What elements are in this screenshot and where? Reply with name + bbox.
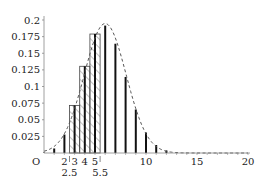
x-extra-label: 5.5 <box>92 167 108 178</box>
x-tick-label: 20 <box>242 156 255 167</box>
tick-labels: 0.0250.050.0750.10.1250.150.1750.2101520… <box>11 15 254 179</box>
x-tick-label: 10 <box>140 156 153 167</box>
y-tick-label: 0.2 <box>24 15 40 26</box>
bars <box>44 26 187 153</box>
y-tick-label: 0.075 <box>11 98 40 109</box>
x-extra-label: 2.5 <box>62 167 78 178</box>
y-tick-label: 0.05 <box>18 114 40 125</box>
y-tick-label: 0.025 <box>11 131 40 142</box>
x-extra-label: 5 <box>92 156 98 167</box>
y-tick-label: 0.125 <box>11 64 40 75</box>
x-extra-label: 4 <box>82 156 88 167</box>
origin-label: O <box>32 156 40 167</box>
y-tick-label: 0.175 <box>11 31 40 42</box>
y-tick-label: 0.1 <box>24 81 40 92</box>
x-extra-label: 3 <box>71 156 77 167</box>
probability-plot: 0.0250.050.0750.10.1250.150.1750.2101520… <box>0 0 263 182</box>
chart: 0.0250.050.0750.10.1250.150.1750.2101520… <box>0 0 263 182</box>
x-tick-label: 15 <box>191 156 204 167</box>
x-extra-label: 2 <box>61 156 67 167</box>
y-tick-label: 0.15 <box>18 48 40 59</box>
